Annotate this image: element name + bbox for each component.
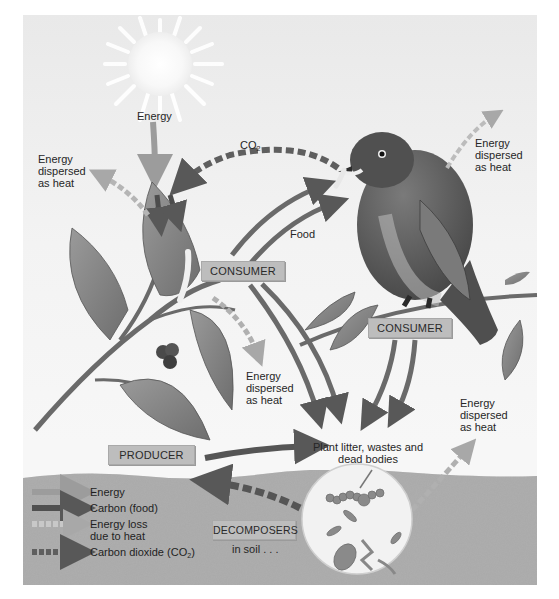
food-arrow-1 [232, 186, 322, 255]
heat-line: dispersed [460, 409, 508, 421]
legend-heat-line1: Energy loss [90, 518, 147, 530]
litter-line: Plant litter, wastes and [308, 441, 428, 453]
heat-line: dispersed [475, 149, 523, 161]
label-heat-middle: Energy dispersed as heat [246, 370, 294, 406]
legend-swatches [32, 492, 78, 552]
carbon-arrow-bird-to-litter-2 [395, 340, 415, 415]
heat-line: Energy [475, 137, 523, 149]
label-heat-top-left: Energy dispersed as heat [38, 153, 86, 189]
legend-heat-label: Energy loss due to heat [90, 518, 147, 542]
label-heat-bottom-right: Energy dispersed as heat [460, 397, 508, 433]
legend-co2-end: ) [191, 546, 195, 558]
plant-producer [35, 182, 235, 440]
co2-text: CO [240, 139, 257, 151]
carbon-arrow-producer-to-litter [205, 446, 312, 458]
legend-heat-line2: due to heat [90, 530, 147, 542]
co2-subscript: 2 [257, 145, 261, 152]
legend-energy-label: Energy [90, 486, 125, 498]
decomposers-magnified-circle [302, 464, 412, 574]
label-in-soil: in soil . . . [232, 543, 278, 555]
heat-line: Energy [246, 370, 294, 382]
heat-line: as heat [460, 421, 508, 433]
heat-line: dispersed [246, 382, 294, 394]
legend-carbon-label: Carbon (food) [90, 502, 158, 514]
label-sun-energy: Energy [137, 110, 172, 122]
heat-arrow-top-left [100, 175, 148, 215]
box-consumer-bird: CONSUMER [368, 318, 452, 338]
sun-icon [105, 18, 222, 120]
label-food: Food [290, 228, 315, 240]
legend-co2-text: Carbon dioxide (CO [90, 546, 187, 558]
co2-arrow-decomposers [210, 482, 300, 508]
heat-line: as heat [246, 394, 294, 406]
ecosystem-artwork [0, 0, 559, 599]
label-heat-top-right: Energy dispersed as heat [475, 137, 523, 173]
label-co2: CO2 [240, 139, 260, 155]
energy-arrow-sun [153, 122, 155, 172]
litter-line: dead bodies [308, 453, 428, 465]
heat-line: Energy [460, 397, 508, 409]
box-decomposers: DECOMPOSERS [212, 520, 296, 540]
label-plant-litter: Plant litter, wastes and dead bodies [308, 441, 428, 465]
heat-line: as heat [38, 177, 86, 189]
box-consumer-caterpillar: CONSUMER [201, 261, 285, 281]
box-producer: PRODUCER [108, 445, 195, 465]
heat-line: as heat [475, 161, 523, 173]
heat-line: dispersed [38, 165, 86, 177]
legend-co2-label: Carbon dioxide (CO2) [90, 546, 195, 562]
heat-line: Energy [38, 153, 86, 165]
carbon-arrow-bird-to-litter-1 [368, 340, 395, 418]
